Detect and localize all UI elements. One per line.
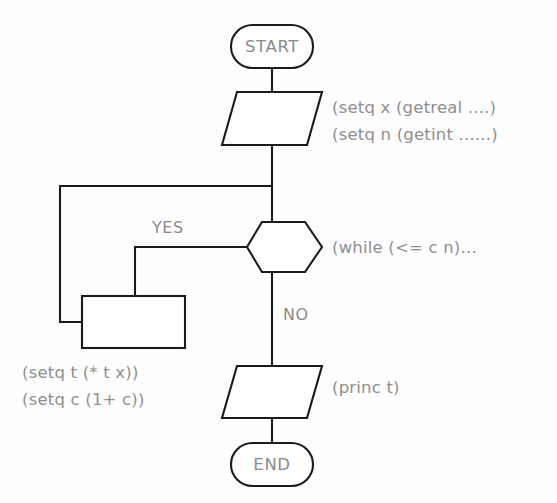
output-shape <box>222 366 322 418</box>
annotation-process-line1: (setq t (* t x)) <box>22 363 139 382</box>
annotation-process-line2: (setq c (1+ c)) <box>22 390 145 409</box>
annotation-decision: (while (<= c n)... <box>332 238 477 257</box>
decision-shape <box>247 222 322 272</box>
no-branch-label: NO <box>283 305 309 324</box>
flowchart-svg: START END YES NO (setq x (getreal ....) … <box>0 0 557 503</box>
connector-yes-branch <box>135 247 247 296</box>
flowchart-canvas: START END YES NO (setq x (getreal ....) … <box>0 0 557 503</box>
annotation-input-line2: (setq n (getint ......) <box>332 125 498 144</box>
node-output[interactable] <box>222 366 322 418</box>
annotation-output: (princ t) <box>332 378 400 397</box>
annotation-input-line1: (setq x (getreal ....) <box>332 98 496 117</box>
end-label: END <box>253 455 290 474</box>
node-process[interactable] <box>82 296 185 348</box>
node-decision[interactable] <box>247 222 322 272</box>
input-shape <box>222 92 322 145</box>
node-start[interactable]: START <box>231 25 313 68</box>
node-input[interactable] <box>222 92 322 145</box>
node-end[interactable]: END <box>231 443 313 486</box>
process-shape <box>82 296 185 348</box>
start-label: START <box>245 37 299 56</box>
yes-branch-label: YES <box>151 218 184 237</box>
